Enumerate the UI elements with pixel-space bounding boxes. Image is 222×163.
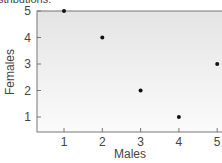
data-point <box>215 62 219 66</box>
y-tick-label: 3 <box>24 57 31 71</box>
x-tick-label: 2 <box>99 135 106 149</box>
data-point <box>62 9 66 13</box>
y-axis-label: Females <box>3 49 17 95</box>
plot-area <box>37 11 222 132</box>
data-point <box>139 89 143 93</box>
x-tick-label: 1 <box>61 135 68 149</box>
y-tick-label: 2 <box>24 84 31 98</box>
x-tick-label: 5 <box>214 135 221 149</box>
y-tick-label: 5 <box>24 4 31 18</box>
data-point <box>177 115 181 119</box>
data-point <box>100 36 104 40</box>
scatter-chart: 12345 12345 Males Females <box>0 0 222 163</box>
y-tick-label: 4 <box>24 31 31 45</box>
x-axis-label: Males <box>114 147 146 161</box>
y-tick-label: 1 <box>24 110 31 124</box>
x-tick-label: 4 <box>176 135 183 149</box>
